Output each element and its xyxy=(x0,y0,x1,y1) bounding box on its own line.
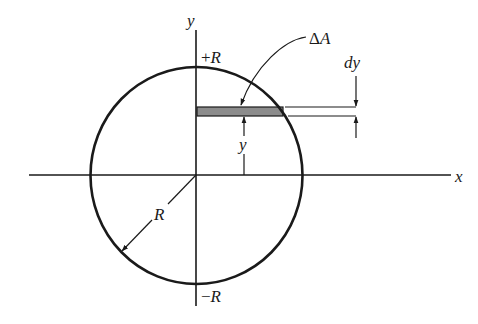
circle-strip-diagram: y x +R −R R ΔA dy y xyxy=(0,0,478,324)
delta-a-leader-arrow xyxy=(241,37,306,105)
dy-label: dy xyxy=(344,53,361,72)
x-axis-label: x xyxy=(454,167,463,186)
y-axis-label: y xyxy=(185,11,195,30)
radius-label: R xyxy=(153,205,165,224)
delta-a-label: ΔA xyxy=(309,29,331,48)
strip-delta-a xyxy=(197,107,283,116)
radius-arrow-upper xyxy=(168,175,196,204)
plus-r-label: +R xyxy=(201,48,222,67)
radius-arrow-lower xyxy=(122,220,152,251)
minus-r-label: −R xyxy=(201,287,222,306)
y-height-label: y xyxy=(237,135,247,154)
